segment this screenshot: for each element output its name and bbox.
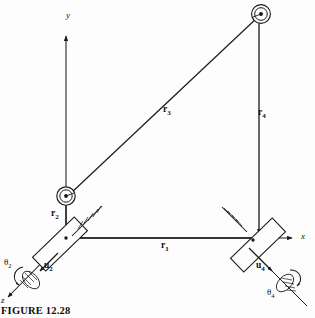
rotation-theta2 (14, 267, 43, 292)
theta2-curve (14, 267, 23, 285)
r1-label-sub: 1 (165, 245, 169, 253)
theta4-label: θ4 (267, 288, 275, 299)
slider-right (222, 207, 285, 272)
r4-label: r4 (258, 108, 266, 120)
u4-label-sub: 4 (261, 265, 265, 273)
x-axis-label: x (301, 232, 305, 241)
figure-caption: FIGURE 12.28 (1, 305, 71, 316)
u2-label: u2 (44, 261, 53, 273)
theta2-label: θ2 (4, 258, 12, 269)
theta2-label-sub: 2 (8, 262, 11, 269)
pin-joint-left (57, 187, 75, 205)
ground-hatch-right (222, 207, 247, 232)
pin-joint-upper-right (252, 5, 271, 24)
r2-label-sub: 2 (55, 213, 59, 221)
y-axis-label: y (66, 11, 70, 20)
z-axis-label: z (1, 296, 5, 305)
r2-label: r2 (51, 209, 59, 221)
u4-label: u4 (256, 261, 265, 273)
figure-container: y x z r3 r4 r2 r1 u2 u4 θ2 θ4 FIGURE 12.… (0, 0, 315, 318)
u2-label-sub: 2 (49, 265, 53, 273)
r1-label: r1 (161, 241, 169, 253)
rotation-theta4 (273, 270, 300, 295)
r3-label: r3 (163, 105, 171, 117)
theta4-label-sub: 4 (271, 292, 274, 299)
r3-label-sub: 3 (167, 109, 171, 117)
displacement-u4 (249, 248, 307, 306)
link-group (66, 17, 259, 238)
r4-label-sub: 4 (262, 112, 266, 120)
